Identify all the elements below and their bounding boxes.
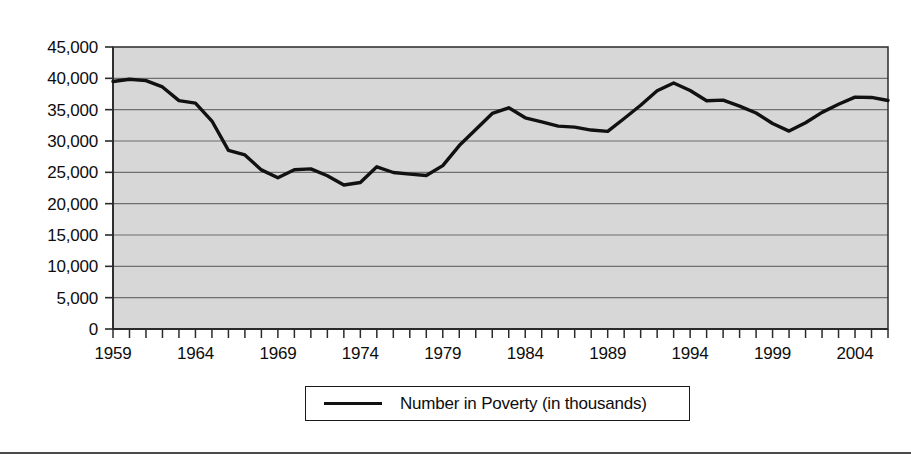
x-axis-tick-label: 2004 [837,345,874,362]
page-bottom-rule [0,452,911,454]
poverty-line-chart: 45,00040,00035,00030,00025,00020,00015,0… [0,0,911,459]
chart-legend: Number in Poverty (in thousands) [305,386,690,421]
x-axis-tick-label: 1994 [672,345,709,362]
x-axis-tick-label: 1979 [424,345,461,362]
legend-entry-label: Number in Poverty (in thousands) [400,395,647,412]
x-axis-tick-label: 1964 [177,345,214,362]
legend-entry: Number in Poverty (in thousands) [306,387,689,420]
x-axis-tick-label: 1959 [94,345,131,362]
x-axis-tick-label: 1974 [342,345,379,362]
x-axis-tick-label: 1989 [589,345,626,362]
x-axis-tick-label: 1999 [754,345,791,362]
legend-line-swatch [324,402,382,405]
x-axis-tick-label: 1969 [259,345,296,362]
x-axis-tick-label: 1984 [507,345,544,362]
